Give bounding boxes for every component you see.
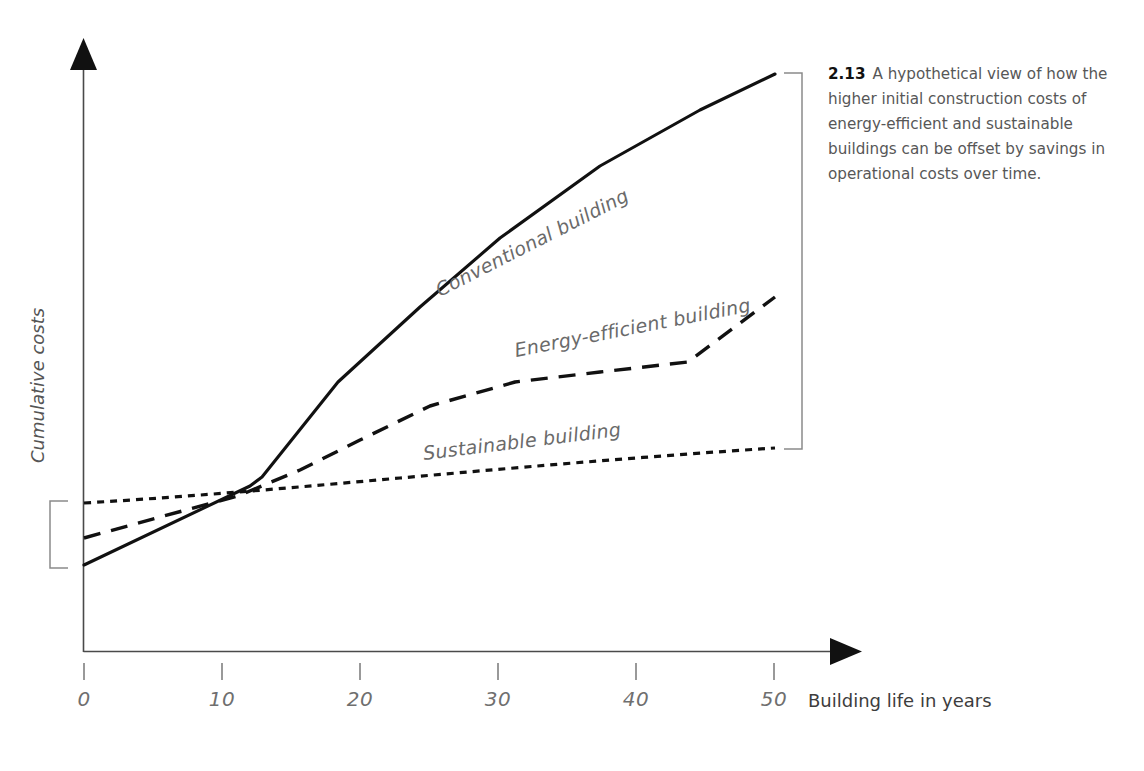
x-tick-label-50: 50 [761,687,787,711]
figure-number: 2.13 [828,65,865,83]
series-energy-efficient-building: Energy-efficient building [84,294,775,538]
series-label-sustainable: Sustainable building [422,418,622,464]
y-axis-title: Cumulative costs [27,308,48,463]
x-tick-label-10: 10 [209,687,235,711]
x-axis-group: 0 10 20 30 40 50 Building life in years [77,638,991,711]
series-label-energy-efficient: Energy-efficient building [513,294,753,361]
x-tick-label-0: 0 [77,687,90,711]
x-tick-label-40: 40 [623,687,649,711]
figure-caption-text: A hypothetical view of how the higher in… [828,65,1107,183]
x-axis-title: Building life in years [808,690,992,711]
x-tick-label-20: 20 [347,687,373,711]
figure-caption: 2.13A hypothetical view of how the highe… [828,62,1136,187]
y-axis-group: Cumulative costs [27,38,97,652]
series-sustainable-building: Sustainable building [84,418,775,503]
final-cost-spread-bracket [784,73,802,449]
y-axis-arrow-icon [70,38,97,70]
x-axis-arrow-icon [830,638,862,665]
series-line-energy-efficient [84,297,775,538]
x-tick-label-30: 30 [485,687,511,711]
figure-2-13: Cumulative costs 0 10 20 30 40 50 Buildi… [0,0,1144,771]
series-label-conventional: Conventional building [432,184,632,301]
initial-cost-spread-bracket [50,501,68,568]
